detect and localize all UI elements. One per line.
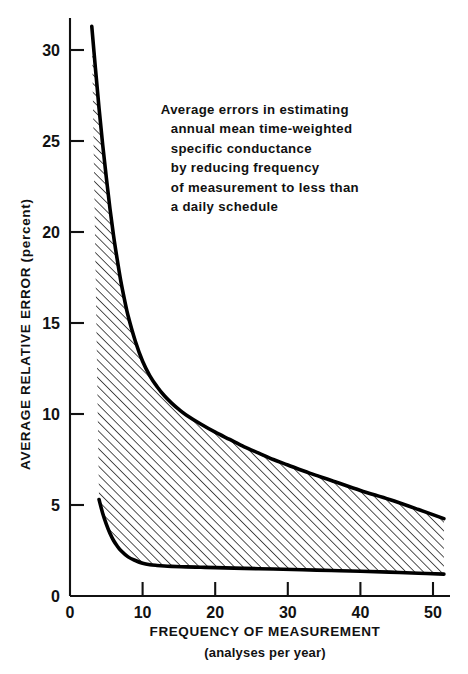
y-tick-label: 15 [42,315,60,332]
annotation-line: annual mean time-weighted [171,121,353,136]
svg-text:AVERAGE RELATIVE ERROR (percen: AVERAGE RELATIVE ERROR (percent) [18,198,33,470]
x-tick-label: 40 [352,604,370,621]
chart-figure: 051015202530 01020304050 AVERAGE RELATIV… [0,0,468,674]
y-tick-label: 0 [51,588,60,605]
x-tick-label: 0 [66,604,75,621]
chart-svg: 051015202530 01020304050 AVERAGE RELATIV… [0,0,468,674]
y-tick-label: 25 [42,133,60,150]
y-tick-label: 20 [42,224,60,241]
x-tick-label: 50 [424,604,442,621]
annotation-line: a daily schedule [171,199,278,214]
y-axis-title: AVERAGE RELATIVE ERROR (percent) [18,198,33,470]
y-tick-label: 10 [42,406,60,423]
x-tick-label: 20 [206,604,224,621]
y-tick-label: 30 [42,42,60,59]
annotation-line: by reducing frequency [171,160,320,175]
svg-text:(analyses per year): (analyses per year) [204,645,326,660]
annotation-line: Average errors in estimating [161,102,349,117]
svg-text:FREQUENCY OF MEASUREMENT: FREQUENCY OF MEASUREMENT [150,624,381,639]
x-tick-label: 10 [134,604,152,621]
annotation-line: specific conductance [171,141,312,156]
y-tick-label: 5 [51,497,60,514]
x-tick-label: 30 [279,604,297,621]
annotation-line: of measurement to less than [171,180,359,195]
